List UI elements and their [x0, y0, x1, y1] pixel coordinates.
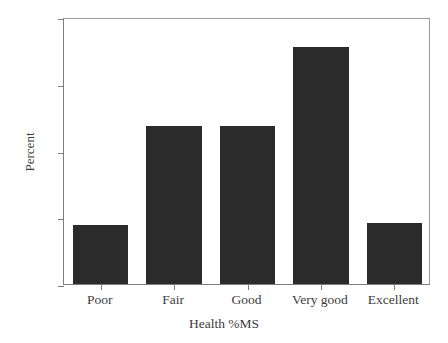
- x-tick-mark: [248, 284, 249, 290]
- x-tick-label-very-good: Very good: [283, 292, 356, 307]
- bar-poor: [73, 225, 128, 284]
- y-tick-mark: [58, 219, 64, 220]
- bar-fair: [146, 126, 201, 284]
- plot-area: [63, 18, 430, 285]
- x-tick-mark: [321, 284, 322, 290]
- x-tick-mark: [394, 284, 395, 290]
- x-tick-label-good: Good: [210, 292, 283, 307]
- y-tick-mark: [58, 153, 64, 154]
- bar-very-good: [293, 47, 348, 284]
- x-tick-mark: [174, 284, 175, 290]
- y-axis-title: Percent: [22, 132, 38, 171]
- x-tick-label-poor: Poor: [63, 292, 136, 307]
- y-tick-mark: [58, 19, 64, 20]
- x-axis-title: Health %MS: [0, 316, 448, 332]
- y-tick-mark: [58, 286, 64, 287]
- bar-series: [64, 19, 429, 284]
- x-tick-label-fair: Fair: [136, 292, 209, 307]
- bar-chart-figure: Percent 010203040 PoorFairGoodVery goodE…: [0, 0, 448, 343]
- bar-good: [220, 126, 275, 284]
- y-tick-mark: [58, 86, 64, 87]
- bar-excellent: [367, 223, 422, 284]
- x-tick-mark: [101, 284, 102, 290]
- x-tick-label-excellent: Excellent: [357, 292, 430, 307]
